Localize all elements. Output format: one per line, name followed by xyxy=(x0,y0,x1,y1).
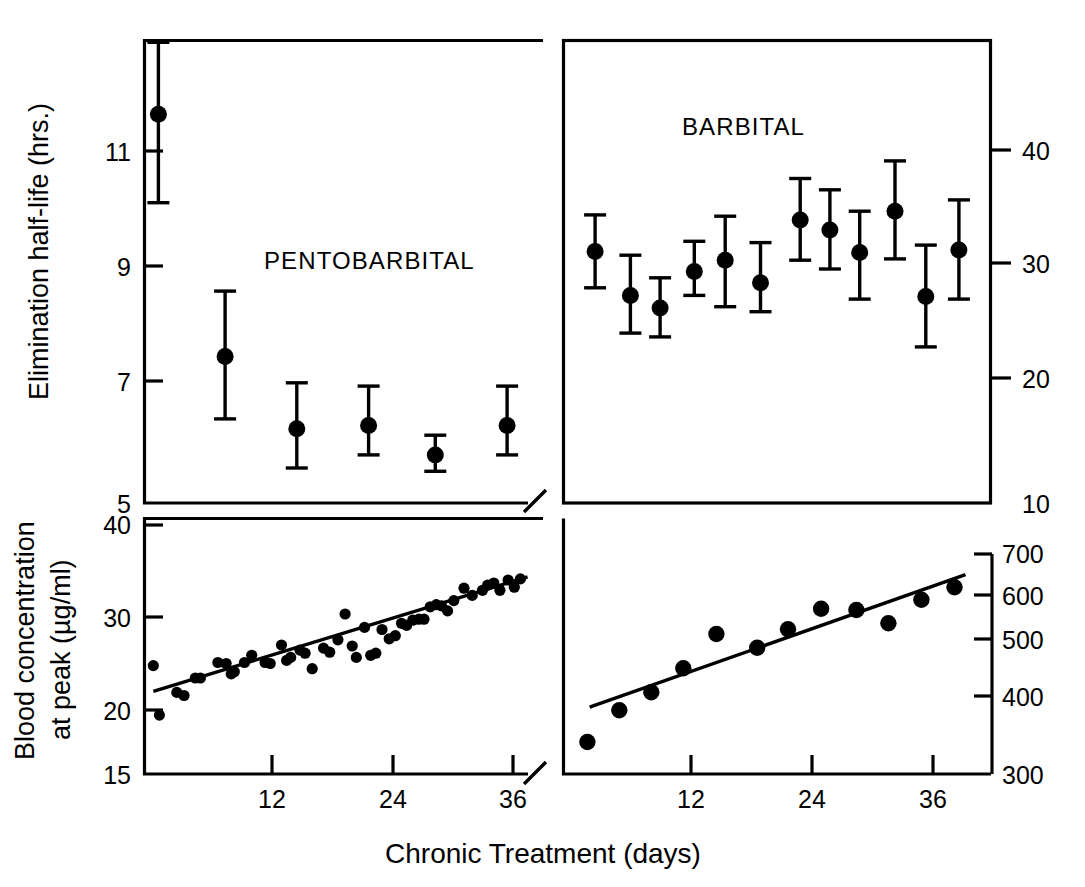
error-bar-point xyxy=(584,215,606,288)
data-point xyxy=(246,650,257,661)
error-bar-point xyxy=(714,216,736,307)
four-panel-figure: Elimination half-life (hrs.) Blood conce… xyxy=(0,0,1085,887)
error-bar-point xyxy=(649,278,671,337)
panel-title-pentobarbital: PENTOBARBITAL xyxy=(264,247,475,274)
mean-marker xyxy=(427,446,444,463)
mean-marker xyxy=(288,420,305,437)
data-point xyxy=(195,672,206,683)
data-point xyxy=(494,585,505,596)
panel-bottom-left: 40 30 20 15 12 24 36 xyxy=(103,511,546,813)
y-axis-title-halflife: Elimination half-life (hrs.) xyxy=(24,103,54,400)
bottom-right-frame xyxy=(564,519,992,775)
error-bar-point xyxy=(683,241,705,295)
top-left-axis-break xyxy=(524,490,546,512)
mean-marker xyxy=(887,203,904,220)
bottom-right-xticklabel-12: 12 xyxy=(677,785,705,813)
y-axis-title-blood-line2: at peak (µg/ml) xyxy=(46,559,76,740)
data-point xyxy=(324,647,335,658)
error-bar-point xyxy=(214,291,236,419)
bottom-right-yticklabel-600: 600 xyxy=(1002,582,1044,610)
data-point xyxy=(347,640,358,651)
bottom-right-yticklabel-500: 500 xyxy=(1002,626,1044,654)
y-axis-title-blood-line1: Blood concentration xyxy=(10,521,40,760)
error-bar-point xyxy=(496,386,518,455)
barbital-halflife-series xyxy=(584,161,970,347)
mean-marker xyxy=(360,417,377,434)
error-bar-point xyxy=(750,243,772,312)
bottom-left-xticklabel-36: 36 xyxy=(499,785,527,813)
data-point xyxy=(307,663,318,674)
data-point xyxy=(780,621,796,637)
data-point xyxy=(675,660,691,676)
data-point xyxy=(515,573,526,584)
top-right-yticklabel-40: 40 xyxy=(1022,137,1050,165)
mean-marker xyxy=(752,274,769,291)
data-point xyxy=(611,702,627,718)
bottom-left-xticklabel-12: 12 xyxy=(258,785,286,813)
top-left-yticklabel-9: 9 xyxy=(117,253,131,281)
mean-marker xyxy=(217,348,234,365)
error-bar-point xyxy=(915,245,937,347)
mean-marker xyxy=(622,287,639,304)
top-right-yticklabel-10: 10 xyxy=(1022,490,1050,518)
error-bar-point xyxy=(619,255,641,333)
panel-top-right: 40 30 20 10 BARBITAL xyxy=(564,41,1050,519)
data-point xyxy=(178,690,189,701)
pentobarbital-concentration-series xyxy=(148,573,528,720)
data-point xyxy=(946,579,962,595)
error-bar-point xyxy=(286,383,308,468)
mean-marker xyxy=(150,106,167,123)
mean-marker xyxy=(950,242,967,259)
data-point xyxy=(749,640,765,656)
top-left-yticklabel-7: 7 xyxy=(117,368,131,396)
data-point xyxy=(276,639,287,650)
bottom-left-yticklabel-15: 15 xyxy=(103,761,131,789)
mean-marker xyxy=(652,299,669,316)
data-point xyxy=(448,595,459,606)
bottom-right-xticklabel-24: 24 xyxy=(798,785,826,813)
data-point xyxy=(370,648,381,659)
data-point xyxy=(300,648,311,659)
panel-top-left: 11 9 7 5 PENTOBARBITAL xyxy=(105,41,546,519)
bottom-left-yticklabel-30: 30 xyxy=(103,604,131,632)
data-point xyxy=(265,658,276,669)
data-point xyxy=(880,615,896,631)
top-left-y-axis-title: Elimination half-life (hrs.) xyxy=(24,103,54,400)
top-right-yticklabel-20: 20 xyxy=(1022,365,1050,393)
mean-marker xyxy=(821,222,838,239)
x-axis-title: Chronic Treatment (days) xyxy=(385,838,701,869)
panel-title-barbital: BARBITAL xyxy=(682,113,805,140)
data-point xyxy=(229,666,240,677)
error-bar-point xyxy=(358,386,380,455)
bottom-left-xticklabel-24: 24 xyxy=(379,785,407,813)
mean-marker xyxy=(587,243,604,260)
error-bar-point xyxy=(789,179,811,261)
data-point xyxy=(708,626,724,642)
bottom-right-yticklabel-400: 400 xyxy=(1002,683,1044,711)
mean-marker xyxy=(851,244,868,261)
panel-bottom-right: 700 600 500 400 300 12 24 36 xyxy=(564,519,1044,814)
top-left-yticklabel-11: 11 xyxy=(105,138,131,166)
figure-container: Elimination half-life (hrs.) Blood conce… xyxy=(0,0,1085,887)
error-bar-point xyxy=(819,190,841,269)
error-bar-point xyxy=(884,161,906,259)
data-point xyxy=(390,630,401,641)
data-point xyxy=(467,590,478,601)
error-bar-point xyxy=(948,200,970,299)
data-point xyxy=(418,614,429,625)
data-point xyxy=(848,602,864,618)
bottom-right-yticklabel-700: 700 xyxy=(1002,540,1044,568)
mean-marker xyxy=(917,288,934,305)
data-point xyxy=(148,660,159,671)
bottom-left-y-axis-title: Blood concentration at peak (µg/ml) xyxy=(10,521,76,760)
data-point xyxy=(285,652,296,663)
error-bar-point xyxy=(147,42,169,202)
error-bar-point xyxy=(424,435,446,471)
data-point xyxy=(154,710,165,721)
data-point xyxy=(376,624,387,635)
data-point xyxy=(332,634,343,645)
data-point xyxy=(813,601,829,617)
mean-marker xyxy=(717,252,734,269)
bottom-right-yticklabel-300: 300 xyxy=(1002,761,1044,789)
data-point xyxy=(351,652,362,663)
